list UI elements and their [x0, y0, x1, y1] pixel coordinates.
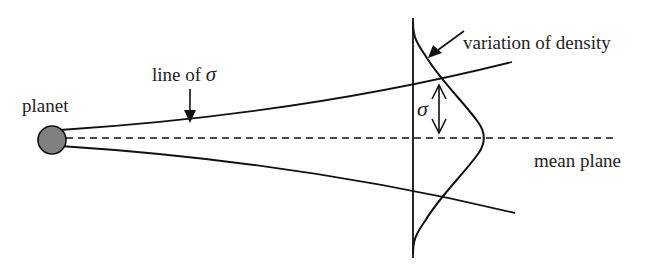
sigma-label: σ: [417, 96, 428, 122]
density-arrow: [438, 31, 464, 50]
arrowhead-icon: [428, 45, 442, 58]
line-of-sigma-label: line of σ: [152, 62, 216, 87]
lower-sigma-line: [60, 146, 515, 213]
planet-label: planet: [22, 95, 68, 117]
mean-plane-label: mean plane: [534, 150, 621, 172]
variation-of-density-label: variation of density: [463, 32, 611, 54]
arrowhead-icon: [184, 110, 196, 123]
diagram-canvas: planet line of σ variation of density σ …: [0, 0, 658, 273]
density-curve: [413, 22, 484, 254]
planet-circle: [38, 126, 66, 154]
sigma-symbol: σ: [206, 62, 216, 86]
line-of-sigma-text: line of: [152, 64, 206, 85]
